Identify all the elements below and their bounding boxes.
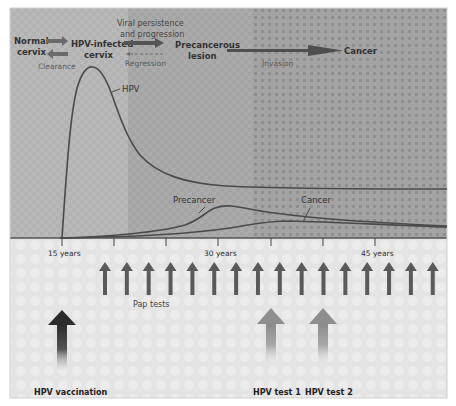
hpv-curve-label: HPV [122, 84, 140, 94]
stage-normal-line1: Normal [14, 36, 49, 46]
tick-label-15: 15 years [48, 249, 81, 258]
pap-tests-label: Pap tests [133, 300, 170, 309]
progression-label-line1: Viral persistence [117, 19, 184, 28]
cancer-curve-label: Cancer [301, 195, 331, 205]
stage-infected-line1: HPV-infected [71, 39, 133, 49]
tick-label-45: 45 years [361, 249, 394, 258]
stage-infected-line2: cervix [84, 50, 113, 60]
zone-cancer [253, 8, 447, 238]
stage-precancer-line1: Precancerous [175, 40, 240, 50]
stage-normal-line2: cervix [17, 47, 46, 57]
regression-label: Regression [125, 59, 166, 68]
hpv-test-1-label: HPV test 1 [253, 388, 301, 397]
hpv-natural-history-figure: Normal cervix Clearance HPV-infected cer… [0, 0, 456, 406]
hpv-test-2-label: HPV test 2 [305, 388, 353, 397]
clearance-label: Clearance [38, 62, 76, 71]
tick-label-30: 30 years [204, 249, 237, 258]
stage-precancer-line2: lesion [188, 51, 217, 61]
precancer-curve-label: Precancer [173, 195, 216, 205]
hpv-vaccination-label: HPV vaccination [34, 388, 108, 397]
progression-label-line2: and progression [120, 30, 184, 39]
invasion-label: Invasion [262, 59, 294, 68]
stage-cancer-label: Cancer [344, 46, 378, 56]
